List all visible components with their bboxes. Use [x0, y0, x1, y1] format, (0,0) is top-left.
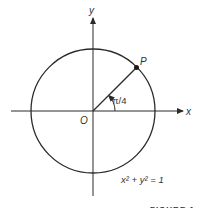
angle-label: π/4 — [112, 95, 126, 106]
x-axis-label: x — [185, 106, 192, 117]
point-label: P — [140, 56, 147, 67]
origin-label: O — [80, 115, 88, 126]
point-p — [134, 65, 139, 70]
equation-label: x² + y² = 1 — [120, 174, 164, 185]
figure-caption: FIGURE 1 — [150, 205, 195, 208]
unit-circle-diagram: y x O P π/4 x² + y² = 1 FIGURE 1 — [0, 0, 198, 208]
y-axis-label: y — [88, 5, 95, 16]
